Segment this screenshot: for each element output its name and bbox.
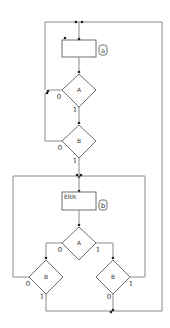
junction-dot (75, 21, 78, 24)
tag-b-label: b (101, 202, 106, 210)
decision-b-right-false-label: 0 (107, 293, 111, 301)
decision-b-right-true-label: 1 (129, 280, 133, 288)
connector-bleft-true (46, 294, 112, 311)
junction-dot (112, 309, 115, 312)
junction-dot (45, 257, 48, 260)
decision-b-1-true-label: 1 (73, 157, 77, 165)
junction-dot (78, 38, 81, 41)
tag-a-label: a (101, 47, 105, 55)
junction-dot (80, 174, 83, 177)
decision-b-right-text: B (111, 273, 115, 280)
process-box-a[interactable] (62, 40, 96, 57)
junction-dot (81, 21, 84, 24)
junction-dot (64, 37, 67, 40)
inner-loop-left-connector (13, 176, 31, 277)
decision-a-2-false-label: 0 (58, 246, 62, 254)
process-b-text: ERR (64, 193, 76, 200)
decision-b-1-text: B (77, 137, 81, 144)
junction-dot (76, 174, 79, 177)
decision-b-left-true-label: 1 (40, 293, 44, 301)
junction-dot (112, 257, 115, 260)
decision-a-1-false-label: 0 (57, 93, 61, 101)
decision-b-left-false-label: 0 (26, 280, 30, 288)
junction-dot (78, 71, 81, 74)
junction-dot (78, 122, 81, 125)
decision-a-2-true-label: 1 (96, 246, 100, 254)
decision-b-left-text: B (44, 273, 48, 280)
junction-dot (110, 311, 113, 314)
flowchart-diagram: a A 0 1 B 0 1 ERR b A 0 1 B 0 1 B 1 0 (0, 0, 170, 328)
decision-a-1-true-label: 1 (73, 106, 77, 114)
junction-dot (46, 92, 49, 95)
decision-b-1-false-label: 0 (58, 144, 62, 152)
junction-dot (78, 224, 81, 227)
